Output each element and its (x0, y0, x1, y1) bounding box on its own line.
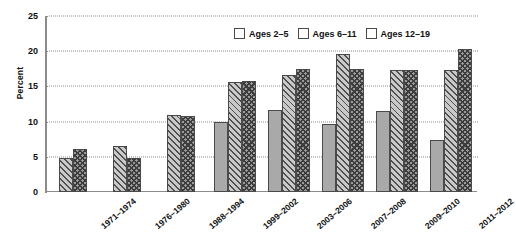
legend-label: Ages 6–11 (313, 29, 357, 39)
bar (73, 149, 87, 192)
y-tick-label: 5 (2, 152, 38, 162)
chart-legend: Ages 2–5Ages 6–11Ages 12–19 (232, 27, 432, 40)
legend-swatch-icon (298, 28, 309, 39)
bar (167, 115, 181, 192)
bar (282, 75, 296, 192)
bar-group (154, 16, 208, 192)
bar-group (316, 16, 370, 192)
bar-group (208, 16, 262, 192)
bar-group (46, 16, 100, 192)
bar (350, 69, 364, 192)
y-axis-tick-labels: 0510152025 (0, 0, 44, 240)
x-tick-label: 1988–1994 (207, 196, 246, 231)
x-tick-label: 2007–2008 (369, 196, 408, 231)
y-tick-label: 25 (2, 11, 38, 21)
y-tick-label: 0 (2, 187, 38, 197)
bar-group (100, 16, 154, 192)
bar-group (424, 16, 478, 192)
legend-label: Ages 2–5 (249, 29, 289, 39)
bar (127, 158, 141, 192)
y-tick-label: 15 (2, 81, 38, 91)
legend-swatch-icon (366, 28, 377, 39)
bar (228, 82, 242, 192)
bar (390, 70, 404, 192)
x-tick-label: 2011–2012 (477, 196, 516, 231)
x-axis-tick-labels: 1971–19741976–19801988–19941999–20022003… (46, 194, 478, 240)
bar (404, 70, 418, 192)
bar-group (370, 16, 424, 192)
bars-layer (46, 16, 478, 192)
bar (296, 69, 310, 192)
bar (113, 146, 127, 192)
x-tick-label: 1971–1974 (99, 196, 138, 231)
bar (444, 70, 458, 192)
y-tick-label: 20 (2, 46, 38, 56)
x-tick-label: 2009–2010 (423, 196, 462, 231)
bar (59, 158, 73, 192)
bar (181, 116, 195, 192)
bar (214, 122, 228, 192)
plot-area (46, 16, 478, 192)
bar (322, 124, 336, 192)
legend-swatch-icon (234, 28, 245, 39)
legend-item[interactable]: Ages 12–19 (366, 28, 431, 39)
legend-item[interactable]: Ages 2–5 (234, 28, 289, 39)
bar-group (262, 16, 316, 192)
legend-item[interactable]: Ages 6–11 (298, 28, 357, 39)
bar (376, 111, 390, 192)
bar (268, 110, 282, 192)
bar (430, 140, 444, 192)
legend-label: Ages 12–19 (381, 29, 431, 39)
bar (458, 49, 472, 192)
x-tick-label: 1999–2002 (261, 196, 300, 231)
x-tick-label: 1976–1980 (153, 196, 192, 231)
x-tick-label: 2003–2006 (315, 196, 354, 231)
bar (336, 54, 350, 192)
bar (242, 81, 256, 192)
y-tick-label: 10 (2, 117, 38, 127)
